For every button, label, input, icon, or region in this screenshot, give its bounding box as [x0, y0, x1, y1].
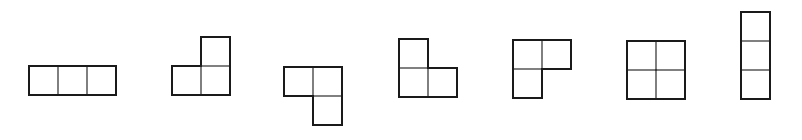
shape-o-tetromino-square [627, 41, 685, 99]
shape-l-tromino-down-right [284, 67, 342, 125]
polyomino-diagram [0, 0, 802, 140]
shape-l-tromino-up-left [399, 39, 457, 97]
shape-vertical-i-tromino [741, 12, 770, 99]
shape-l-tromino-up-right [172, 37, 230, 95]
shape-l-tromino-down-left [513, 40, 571, 98]
shape-horizontal-i-tromino [29, 66, 116, 95]
